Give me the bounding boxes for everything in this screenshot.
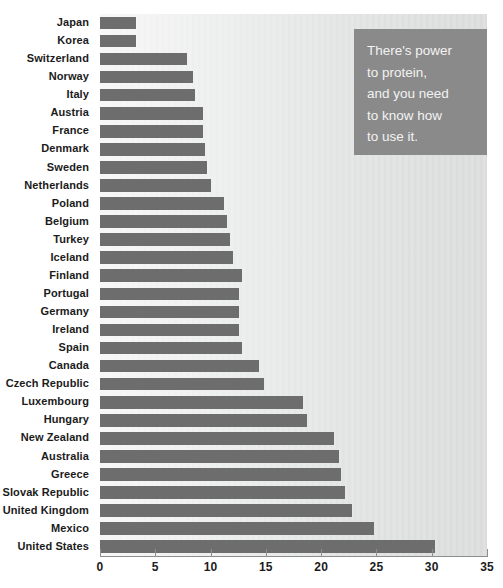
category-label: Denmark bbox=[41, 142, 89, 154]
bar bbox=[100, 360, 259, 373]
bar-row: Belgium bbox=[0, 213, 503, 231]
bar-row: Spain bbox=[0, 339, 503, 357]
category-label: Portugal bbox=[44, 287, 89, 299]
bar bbox=[100, 288, 239, 301]
bar-row: Turkey bbox=[0, 231, 503, 249]
bar bbox=[100, 71, 193, 84]
bar bbox=[100, 269, 242, 282]
x-axis-line bbox=[100, 556, 487, 557]
bar bbox=[100, 414, 307, 427]
category-label: Poland bbox=[52, 197, 89, 209]
bar-row: Hungary bbox=[0, 411, 503, 429]
bar bbox=[100, 450, 339, 463]
bar-row: Greece bbox=[0, 466, 503, 484]
x-axis-tick-label: 10 bbox=[191, 560, 231, 574]
bar bbox=[100, 143, 205, 156]
category-label: Sweden bbox=[47, 161, 89, 173]
bar bbox=[100, 125, 203, 138]
bar bbox=[100, 468, 341, 481]
bar-row: Iceland bbox=[0, 249, 503, 267]
bar bbox=[100, 342, 242, 355]
bar bbox=[100, 251, 233, 264]
category-label: Netherlands bbox=[24, 179, 89, 191]
x-axis-tick bbox=[487, 549, 488, 557]
bar-row: Netherlands bbox=[0, 177, 503, 195]
x-axis-tick bbox=[266, 549, 267, 557]
category-label: Greece bbox=[51, 468, 89, 480]
category-label: Turkey bbox=[53, 233, 89, 245]
bar-row: Mexico bbox=[0, 520, 503, 538]
bar-row: New Zealand bbox=[0, 429, 503, 447]
bar bbox=[100, 161, 207, 174]
x-axis-tick-label: 15 bbox=[246, 560, 286, 574]
bar-row: Canada bbox=[0, 357, 503, 375]
bar bbox=[100, 432, 334, 445]
category-label: United States bbox=[17, 540, 89, 552]
category-label: Finland bbox=[49, 269, 89, 281]
category-label: Hungary bbox=[44, 413, 89, 425]
bar-row: Czech Republic bbox=[0, 375, 503, 393]
bar bbox=[100, 522, 374, 535]
category-label: Czech Republic bbox=[6, 377, 89, 389]
bar-row: Slovak Republic bbox=[0, 484, 503, 502]
bar bbox=[100, 197, 224, 210]
x-axis-tick-label: 30 bbox=[412, 560, 452, 574]
category-label: New Zealand bbox=[21, 431, 89, 443]
category-label: Belgium bbox=[45, 215, 89, 227]
bar bbox=[100, 233, 230, 246]
category-label: Mexico bbox=[51, 522, 89, 534]
bar-row: Portugal bbox=[0, 285, 503, 303]
bar bbox=[100, 107, 203, 120]
x-axis-tick bbox=[211, 549, 212, 557]
x-axis-tick bbox=[376, 549, 377, 557]
category-label: Slovak Republic bbox=[3, 486, 89, 498]
category-label: Austria bbox=[50, 106, 89, 118]
bar bbox=[100, 17, 136, 30]
x-axis-tick-label: 5 bbox=[135, 560, 175, 574]
category-label: Germany bbox=[41, 305, 89, 317]
bar-row: Poland bbox=[0, 195, 503, 213]
bar bbox=[100, 396, 303, 409]
category-label: Spain bbox=[59, 341, 89, 353]
x-axis-tick bbox=[321, 549, 322, 557]
x-axis-tick bbox=[432, 549, 433, 557]
bar bbox=[100, 89, 195, 102]
bar bbox=[100, 306, 239, 319]
bar bbox=[100, 540, 435, 553]
x-axis-tick bbox=[100, 549, 101, 557]
bar bbox=[100, 378, 264, 391]
bar bbox=[100, 486, 345, 499]
bar bbox=[100, 324, 239, 337]
bar-row: Luxembourg bbox=[0, 393, 503, 411]
bar bbox=[100, 504, 352, 517]
bar bbox=[100, 215, 227, 228]
category-label: Iceland bbox=[50, 251, 89, 263]
category-label: Australia bbox=[41, 450, 89, 462]
category-label: Italy bbox=[66, 88, 89, 100]
bar-row: Ireland bbox=[0, 321, 503, 339]
bar-row: Sweden bbox=[0, 159, 503, 177]
bar-row: United Kingdom bbox=[0, 502, 503, 520]
category-label: Luxembourg bbox=[21, 395, 89, 407]
category-label: France bbox=[52, 124, 89, 136]
category-label: Ireland bbox=[52, 323, 89, 335]
bar-row: United States bbox=[0, 538, 503, 556]
x-axis-tick-label: 0 bbox=[80, 560, 120, 574]
x-axis-tick-label: 25 bbox=[356, 560, 396, 574]
bar-chart-figure: JapanKoreaSwitzerlandNorwayItalyAustriaF… bbox=[0, 0, 503, 588]
x-axis-tick-label: 20 bbox=[301, 560, 341, 574]
category-label: Korea bbox=[57, 34, 89, 46]
x-axis-tick-label: 35 bbox=[467, 560, 503, 574]
callout-box: There's power to protein, and you need t… bbox=[354, 29, 487, 155]
category-label: Switzerland bbox=[27, 52, 89, 64]
callout-text: There's power to protein, and you need t… bbox=[367, 40, 475, 148]
bar-row: Finland bbox=[0, 267, 503, 285]
bar bbox=[100, 35, 136, 48]
bar-row: Australia bbox=[0, 448, 503, 466]
bar bbox=[100, 53, 187, 66]
category-label: Canada bbox=[49, 359, 89, 371]
bar-row: Germany bbox=[0, 303, 503, 321]
category-label: Japan bbox=[57, 16, 89, 28]
category-label: Norway bbox=[49, 70, 89, 82]
category-label: United Kingdom bbox=[3, 504, 89, 516]
